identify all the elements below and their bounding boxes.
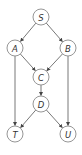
edge-b-to-c [47, 54, 63, 71]
node-label: S [38, 13, 44, 23]
node-a: A [7, 40, 23, 56]
node-label: C [38, 73, 44, 83]
node-t: T [7, 126, 23, 142]
node-s: S [33, 9, 49, 25]
node-u: U [60, 126, 76, 142]
edge-a-to-c [20, 54, 35, 71]
dag-diagram: SABCDTU [0, 0, 82, 155]
node-label: U [65, 130, 72, 140]
node-d: D [33, 96, 49, 112]
nodes-group: SABCDTU [7, 9, 76, 142]
node-label: A [11, 44, 18, 54]
edge-s-to-a [20, 23, 35, 41]
node-b: B [60, 40, 76, 56]
node-label: T [12, 130, 18, 140]
edge-s-to-b [46, 23, 62, 42]
node-label: D [38, 100, 45, 110]
edge-d-to-t [21, 110, 36, 128]
node-label: B [65, 44, 71, 54]
edge-d-to-u [46, 110, 62, 128]
node-c: C [33, 69, 49, 85]
